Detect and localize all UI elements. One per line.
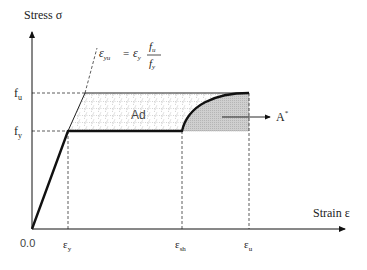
esh-label: εsh: [175, 238, 186, 253]
origin-label: 0.0: [20, 237, 35, 249]
eu-label: εu: [244, 238, 253, 253]
svg-text:εy: εy: [133, 46, 142, 62]
ey-label: εy: [63, 238, 72, 253]
stress-strain-diagram: Stress σ Strain ε 0.0 fu fy εy εsh εu εy…: [0, 0, 367, 270]
a-star-label: A*: [276, 109, 289, 124]
fy-label: fy: [14, 124, 22, 140]
svg-text:=: =: [123, 47, 129, 59]
eyu-formula: εyu = εy fu fy: [99, 40, 161, 71]
fu-label: fu: [14, 86, 22, 102]
svg-text:εyu: εyu: [99, 46, 111, 62]
x-axis-label: Strain ε: [313, 206, 350, 220]
svg-text:fy: fy: [149, 57, 156, 71]
ad-label: Ad: [131, 108, 146, 122]
svg-text:fu: fu: [149, 40, 156, 54]
y-axis-label: Stress σ: [24, 8, 63, 22]
